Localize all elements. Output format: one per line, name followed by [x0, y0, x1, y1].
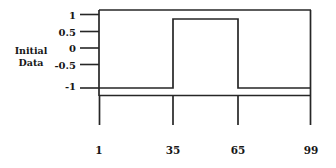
plot-canvas: [0, 0, 336, 168]
chart-figure: Initial Data 1 0.5 0 -0.5 -1 1 35 65 99: [0, 0, 336, 168]
x-axis-ticks: [100, 96, 311, 125]
data-series-initial-data: [99, 19, 311, 88]
y-axis-ticks: [80, 15, 99, 89]
